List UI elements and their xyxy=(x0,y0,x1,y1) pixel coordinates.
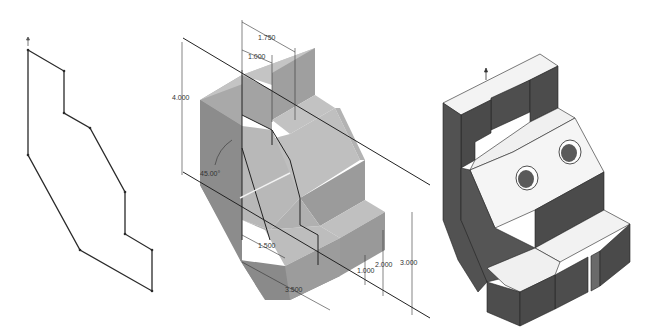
part-body xyxy=(443,54,630,326)
finished-part xyxy=(0,0,650,334)
hole-left xyxy=(516,166,538,190)
hole-right xyxy=(559,140,581,164)
origin-icon xyxy=(485,68,488,80)
